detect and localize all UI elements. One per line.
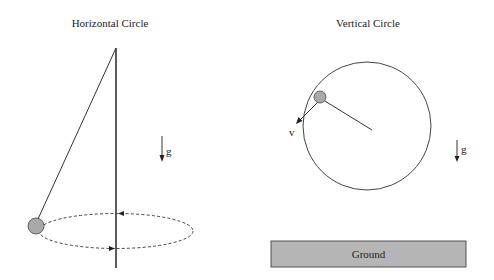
horizontal-circle-title: Horizontal Circle: [72, 17, 149, 29]
direction-arrow-bottom-icon: [109, 246, 115, 251]
diagram-canvas: Horizontal Circle g Vertical Circle: [0, 0, 494, 280]
velocity-label: v: [289, 126, 295, 138]
radius-line: [320, 98, 372, 130]
gravity-arrow-icon: [455, 140, 460, 162]
velocity-arrow-icon: [296, 102, 318, 124]
pendulum-string: [38, 48, 116, 219]
pendulum-ball: [28, 218, 44, 234]
ground-label: Ground: [352, 248, 386, 260]
horizontal-circle-panel: Horizontal Circle g: [28, 17, 193, 268]
gravity-label: g: [461, 143, 467, 155]
vertical-circle-title: Vertical Circle: [336, 17, 400, 29]
direction-arrow-top-icon: [118, 211, 124, 216]
vertical-circular-path: [303, 62, 431, 190]
vertical-circle-panel: Vertical Circle v g Ground: [271, 17, 467, 267]
vertical-ball: [314, 91, 326, 103]
gravity-label: g: [166, 145, 172, 157]
gravity-arrow-icon: [160, 136, 165, 162]
